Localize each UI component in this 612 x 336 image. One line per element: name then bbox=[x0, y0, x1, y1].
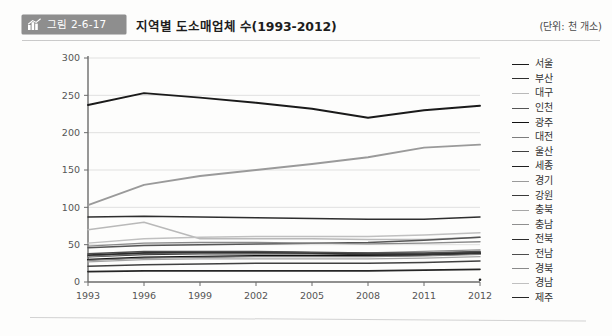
series-point-세종 bbox=[479, 278, 482, 281]
series-line-경기 bbox=[88, 145, 480, 205]
x-axis-tick-label: 1996 bbox=[132, 290, 156, 301]
series-line-제주 bbox=[88, 269, 480, 271]
legend-item-서울[interactable]: 서울 bbox=[512, 57, 608, 72]
legend-item-인천[interactable]: 인천 bbox=[512, 101, 608, 116]
figure-page: 그림 2-6-17 지역별 도소매업체 수(1993-2012) (단위: 천 … bbox=[0, 0, 612, 336]
legend-label: 대전 bbox=[535, 132, 553, 142]
legend-swatch-인천 bbox=[512, 108, 529, 109]
legend-label: 경북 bbox=[535, 264, 553, 274]
legend-label: 강원 bbox=[535, 191, 553, 201]
legend-swatch-광주 bbox=[512, 122, 529, 123]
header-divider bbox=[22, 40, 600, 41]
footer-divider bbox=[30, 317, 586, 321]
legend-label: 경남 bbox=[535, 278, 553, 288]
legend-swatch-부산 bbox=[512, 78, 529, 79]
legend-label: 제주 bbox=[535, 293, 553, 303]
legend-swatch-경기 bbox=[512, 181, 529, 182]
legend-label: 경기 bbox=[535, 176, 553, 186]
x-axis-tick-label: 1999 bbox=[188, 290, 212, 301]
legend-swatch-대구 bbox=[512, 93, 529, 94]
legend-label: 전남 bbox=[535, 249, 553, 259]
legend-item-울산[interactable]: 울산 bbox=[512, 145, 608, 160]
legend-label: 대구 bbox=[535, 88, 553, 98]
x-axis-tick-label: 2008 bbox=[356, 290, 380, 301]
legend-label: 인천 bbox=[535, 103, 553, 113]
legend-swatch-전북 bbox=[512, 239, 529, 240]
figure-number-label: 그림 2-6-17 bbox=[47, 19, 106, 30]
legend-label: 광주 bbox=[535, 118, 553, 128]
chart-legend: 서울부산대구인천광주대전울산세종경기강원충북충남전북전남경북경남제주 bbox=[512, 57, 608, 305]
x-axis-tick-label: 1993 bbox=[76, 290, 100, 301]
bar-chart-icon bbox=[27, 18, 42, 31]
line-chart: 0501001502002503001993199619992002200520… bbox=[0, 44, 500, 312]
legend-item-부산[interactable]: 부산 bbox=[512, 72, 608, 87]
series-line-부산 bbox=[88, 216, 480, 219]
legend-swatch-서울 bbox=[512, 64, 529, 65]
figure-number-badge: 그림 2-6-17 bbox=[22, 15, 126, 34]
legend-label: 전북 bbox=[535, 234, 553, 244]
legend-swatch-제주 bbox=[512, 297, 529, 298]
x-axis-tick-label: 2012 bbox=[468, 290, 492, 301]
legend-item-충남[interactable]: 충남 bbox=[512, 218, 608, 233]
legend-item-광주[interactable]: 광주 bbox=[512, 115, 608, 130]
chart-area: 0501001502002503001993199619992002200520… bbox=[0, 44, 500, 312]
legend-label: 충남 bbox=[535, 220, 553, 230]
y-axis-tick-label: 300 bbox=[62, 52, 80, 63]
legend-item-제주[interactable]: 제주 bbox=[512, 291, 608, 306]
legend-swatch-충북 bbox=[512, 210, 529, 211]
legend-swatch-경북 bbox=[512, 268, 529, 269]
legend-item-전북[interactable]: 전북 bbox=[512, 232, 608, 247]
legend-label: 울산 bbox=[535, 147, 553, 157]
y-axis-tick-label: 200 bbox=[62, 127, 80, 138]
legend-swatch-울산 bbox=[512, 151, 529, 152]
legend-swatch-세종 bbox=[512, 166, 529, 167]
legend-item-전남[interactable]: 전남 bbox=[512, 247, 608, 262]
legend-swatch-강원 bbox=[512, 195, 529, 196]
legend-item-충북[interactable]: 충북 bbox=[512, 203, 608, 218]
legend-swatch-충남 bbox=[512, 224, 529, 225]
legend-item-대전[interactable]: 대전 bbox=[512, 130, 608, 145]
x-axis-tick-label: 2005 bbox=[300, 290, 324, 301]
legend-item-경남[interactable]: 경남 bbox=[512, 276, 608, 291]
series-line-울산 bbox=[88, 261, 480, 266]
legend-label: 부산 bbox=[535, 74, 553, 84]
figure-title: 지역별 도소매업체 수(1993-2012) bbox=[136, 16, 337, 35]
x-axis-tick-label: 2002 bbox=[244, 290, 268, 301]
legend-label: 세종 bbox=[535, 161, 553, 171]
legend-item-경북[interactable]: 경북 bbox=[512, 261, 608, 276]
legend-label: 충북 bbox=[535, 205, 553, 215]
figure-unit-label: (단위: 천 개소) bbox=[539, 18, 602, 33]
legend-item-경기[interactable]: 경기 bbox=[512, 174, 608, 189]
legend-swatch-대전 bbox=[512, 137, 529, 138]
legend-label: 서울 bbox=[535, 59, 553, 69]
y-axis-tick-label: 100 bbox=[62, 202, 80, 213]
legend-swatch-경남 bbox=[512, 283, 529, 284]
legend-item-대구[interactable]: 대구 bbox=[512, 86, 608, 101]
legend-item-세종[interactable]: 세종 bbox=[512, 159, 608, 174]
y-axis-tick-label: 150 bbox=[62, 164, 80, 175]
y-axis-tick-label: 250 bbox=[62, 90, 80, 101]
y-axis-tick-label: 50 bbox=[68, 239, 80, 250]
legend-item-강원[interactable]: 강원 bbox=[512, 188, 608, 203]
legend-swatch-전남 bbox=[512, 254, 529, 255]
figure-header: 그림 2-6-17 지역별 도소매업체 수(1993-2012) (단위: 천 … bbox=[0, 12, 612, 40]
y-axis-tick-label: 0 bbox=[74, 276, 80, 287]
x-axis-tick-label: 2011 bbox=[412, 290, 436, 301]
series-line-서울 bbox=[88, 93, 480, 118]
